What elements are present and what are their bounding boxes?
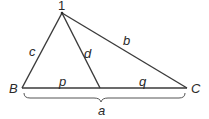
side-label-q: q (139, 74, 147, 89)
vertex-label-c: C (191, 81, 201, 96)
triangle-diagram: 1 B C c b d p q a (0, 0, 209, 119)
side-c (22, 13, 62, 88)
vertex-label-b: B (9, 81, 18, 96)
vertex-label-apex: 1 (58, 0, 65, 13)
side-label-b: b (123, 33, 130, 48)
side-label-d: d (84, 46, 92, 61)
diagram-svg: 1 B C c b d p q a (0, 0, 209, 119)
side-label-p: p (58, 74, 66, 89)
brace-a (24, 93, 185, 102)
side-label-c: c (29, 44, 36, 59)
side-label-a: a (98, 103, 105, 118)
